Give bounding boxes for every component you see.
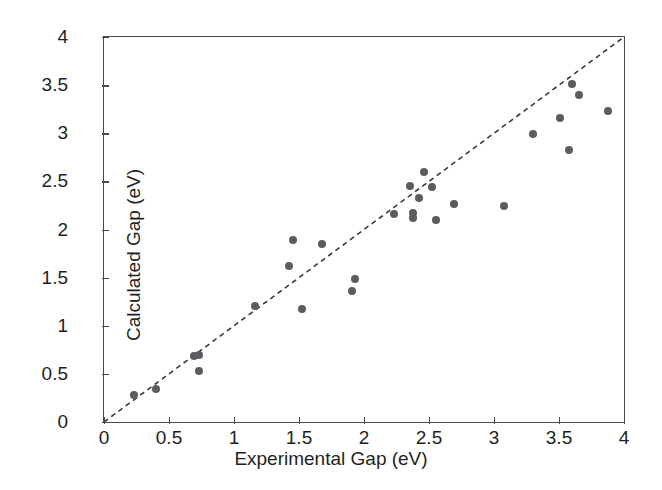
x-tick-mark [299, 417, 300, 424]
y-tick-label: 1.5 [42, 267, 68, 289]
x-tick-mark [624, 417, 625, 424]
x-tick-mark [559, 417, 560, 424]
x-tick-label: 0 [99, 427, 110, 449]
data-point [195, 367, 203, 375]
data-point [285, 262, 293, 270]
plot-area: 00.511.522.533.54 00.511.522.533.54 Calc… [103, 36, 625, 423]
y-tick-mark [102, 278, 109, 279]
x-tick-label: 1.5 [286, 427, 312, 449]
data-point [428, 183, 436, 191]
data-point [195, 351, 203, 359]
y-tick-label: 0.5 [42, 363, 68, 385]
data-point [604, 107, 612, 115]
y-tick-mark [102, 374, 109, 375]
data-point [406, 182, 414, 190]
y-tick-mark [102, 181, 109, 182]
data-point [289, 236, 297, 244]
data-point [420, 168, 428, 176]
y-tick-mark [102, 326, 109, 327]
y-tick-label: 0 [57, 411, 68, 433]
data-point [575, 91, 583, 99]
data-point [432, 216, 440, 224]
y-tick-mark [102, 37, 109, 38]
y-axis-title: Calculated Gap (eV) [123, 63, 145, 448]
data-point [251, 302, 259, 310]
x-tick-label: 1 [229, 427, 240, 449]
data-point [318, 240, 326, 248]
data-point [152, 385, 160, 393]
x-tick-label: 4 [619, 427, 630, 449]
y-tick-mark [102, 422, 109, 423]
data-points-layer [104, 37, 624, 422]
data-point [568, 80, 576, 88]
data-point [390, 210, 398, 218]
x-tick-label: 2 [359, 427, 370, 449]
data-point [351, 275, 359, 283]
x-tick-label: 2.5 [416, 427, 442, 449]
x-tick-mark [494, 417, 495, 424]
x-tick-label: 3 [489, 427, 500, 449]
x-tick-label: 0.5 [156, 427, 182, 449]
data-point [348, 287, 356, 295]
data-point [529, 130, 537, 138]
data-point [500, 202, 508, 210]
data-point [415, 194, 423, 202]
data-point [565, 146, 573, 154]
data-point [298, 305, 306, 313]
y-tick-label: 3 [57, 122, 68, 144]
data-point [409, 214, 417, 222]
x-tick-label: 3.5 [546, 427, 572, 449]
y-tick-label: 1 [57, 315, 68, 337]
y-tick-label: 2 [57, 219, 68, 241]
x-tick-mark [234, 417, 235, 424]
y-tick-mark [102, 133, 109, 134]
y-tick-label: 2.5 [42, 170, 68, 192]
x-tick-mark [429, 417, 430, 424]
x-tick-mark [364, 417, 365, 424]
scatter-plot-figure: 00.511.522.533.54 00.511.522.533.54 Calc… [0, 0, 662, 490]
data-point [556, 114, 564, 122]
y-tick-mark [102, 230, 109, 231]
x-tick-mark [169, 417, 170, 424]
x-axis-title: Experimental Gap (eV) [0, 448, 662, 470]
y-tick-label: 3.5 [42, 74, 68, 96]
data-point [450, 200, 458, 208]
y-tick-label: 4 [57, 26, 68, 48]
y-tick-mark [102, 85, 109, 86]
